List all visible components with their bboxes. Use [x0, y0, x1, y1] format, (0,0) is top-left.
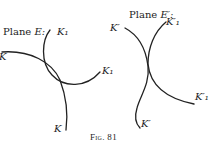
plane-symbol-e: E: [34, 26, 45, 37]
right-label-k1-right: K′₁ [195, 92, 209, 102]
left-curve-k1 [44, 30, 101, 84]
plane-word: Plane [129, 9, 157, 20]
left-label-k1-right: K₁ [102, 66, 113, 76]
left-label-k1-top: K₁ [57, 27, 68, 37]
right-curve-k-prime [125, 28, 148, 128]
plane-word: Plane [3, 26, 31, 37]
left-label-k-bottom: K [54, 124, 61, 134]
right-curve-k1-prime [148, 22, 194, 104]
figure-caption: Fig. 81 [90, 133, 117, 142]
right-label-k-bottom: K′ [141, 119, 151, 129]
left-plane-label: Plane E: [3, 27, 45, 37]
left-curve-k [2, 52, 67, 130]
right-label-k-left: K′ [110, 23, 120, 33]
right-label-k1-top: K′₁ [166, 17, 180, 27]
left-label-k-left: K [0, 52, 6, 62]
figure-81: Plane E: K₁ K K₁ K Plane E′: K′₁ K′ K′₁ … [0, 0, 212, 145]
